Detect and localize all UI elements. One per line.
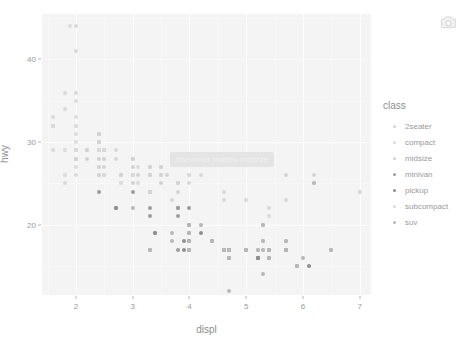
data-point[interactable] (284, 173, 288, 177)
data-point[interactable] (136, 181, 140, 185)
data-point[interactable] (222, 198, 226, 202)
data-point[interactable] (256, 248, 260, 252)
data-point[interactable] (148, 173, 152, 177)
data-point[interactable] (159, 173, 163, 177)
data-point[interactable] (131, 165, 135, 169)
data-point[interactable] (261, 248, 265, 252)
data-point[interactable] (74, 124, 78, 128)
data-point[interactable] (261, 239, 265, 243)
data-point[interactable] (170, 198, 174, 202)
data-point[interactable] (244, 248, 248, 252)
data-point[interactable] (153, 231, 157, 235)
data-point[interactable] (210, 239, 214, 243)
data-point[interactable] (187, 223, 191, 227)
data-point[interactable] (74, 115, 78, 119)
data-point[interactable] (199, 173, 203, 177)
data-point[interactable] (187, 181, 191, 185)
data-point[interactable] (63, 173, 67, 177)
data-point[interactable] (284, 239, 288, 243)
modebar[interactable] (437, 12, 459, 32)
data-point[interactable] (148, 248, 152, 252)
data-point[interactable] (148, 214, 152, 218)
data-point[interactable] (148, 190, 152, 194)
data-point[interactable] (63, 107, 67, 111)
data-point[interactable] (74, 49, 78, 53)
data-point[interactable] (51, 124, 55, 128)
data-point[interactable] (97, 132, 101, 136)
data-point[interactable] (102, 173, 106, 177)
data-point[interactable] (182, 248, 186, 252)
data-point[interactable] (187, 248, 191, 252)
data-point[interactable] (256, 256, 260, 260)
data-point[interactable] (97, 148, 101, 152)
data-point[interactable] (176, 206, 180, 210)
data-point[interactable] (131, 206, 135, 210)
data-point[interactable] (131, 173, 135, 177)
data-point[interactable] (97, 157, 101, 161)
data-point[interactable] (102, 157, 106, 161)
data-point[interactable] (85, 148, 89, 152)
data-point[interactable] (284, 198, 288, 202)
data-point[interactable] (74, 148, 78, 152)
data-point[interactable] (176, 214, 180, 218)
data-point[interactable] (267, 214, 271, 218)
legend-item-suv[interactable]: suv (387, 214, 463, 230)
data-point[interactable] (74, 173, 78, 177)
data-point[interactable] (284, 248, 288, 252)
data-point[interactable] (199, 223, 203, 227)
data-point[interactable] (182, 239, 186, 243)
data-point[interactable] (295, 264, 299, 268)
data-point[interactable] (74, 24, 78, 28)
data-point[interactable] (227, 289, 231, 293)
data-point[interactable] (170, 239, 174, 243)
data-point[interactable] (261, 272, 265, 276)
data-point[interactable] (222, 190, 226, 194)
data-point[interactable] (301, 256, 305, 260)
legend[interactable]: class 2seatercompactmidsizeminivanpickup… (383, 100, 463, 230)
data-point[interactable] (312, 181, 316, 185)
data-point[interactable] (227, 256, 231, 260)
data-point[interactable] (358, 190, 362, 194)
legend-item-2seater[interactable]: 2seater (387, 118, 463, 134)
camera-icon[interactable] (441, 15, 456, 29)
data-point[interactable] (119, 173, 123, 177)
data-point[interactable] (227, 248, 231, 252)
data-point[interactable] (74, 157, 78, 161)
data-point[interactable] (131, 157, 135, 161)
legend-item-midsize[interactable]: midsize (387, 150, 463, 166)
data-point[interactable] (176, 248, 180, 252)
data-point[interactable] (74, 140, 78, 144)
data-point[interactable] (102, 165, 106, 169)
data-point[interactable] (176, 190, 180, 194)
data-point[interactable] (85, 157, 89, 161)
data-point[interactable] (131, 190, 135, 194)
data-point[interactable] (307, 264, 311, 268)
data-point[interactable] (97, 190, 101, 194)
data-point[interactable] (97, 140, 101, 144)
data-point[interactable] (136, 173, 140, 177)
data-point[interactable] (119, 181, 123, 185)
data-point[interactable] (114, 148, 118, 152)
data-point[interactable] (97, 165, 101, 169)
data-point[interactable] (187, 206, 191, 210)
data-point[interactable] (329, 248, 333, 252)
data-point[interactable] (63, 91, 67, 95)
data-point[interactable] (102, 148, 106, 152)
data-point[interactable] (199, 231, 203, 235)
data-point[interactable] (267, 248, 271, 252)
data-point[interactable] (148, 206, 152, 210)
data-point[interactable] (148, 165, 152, 169)
data-point[interactable] (176, 181, 180, 185)
data-point[interactable] (51, 115, 55, 119)
data-point[interactable] (114, 206, 118, 210)
data-point[interactable] (159, 181, 163, 185)
data-point[interactable] (131, 181, 135, 185)
data-point[interactable] (187, 231, 191, 235)
data-point[interactable] (74, 165, 78, 169)
data-point[interactable] (222, 248, 226, 252)
data-point[interactable] (63, 148, 67, 152)
data-point[interactable] (267, 256, 271, 260)
legend-item-minivan[interactable]: minivan (387, 166, 463, 182)
data-point[interactable] (187, 239, 191, 243)
data-point[interactable] (74, 91, 78, 95)
